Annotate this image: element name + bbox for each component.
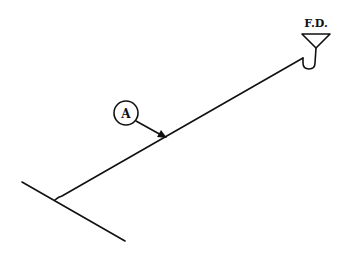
plumbing-diagram: F.D. A xyxy=(0,0,341,261)
fixture-label: F.D. xyxy=(304,17,328,30)
main-pipe xyxy=(22,182,125,241)
callout-label: A xyxy=(120,107,131,121)
floor-drain-funnel-icon xyxy=(302,34,330,48)
p-trap xyxy=(303,48,316,69)
branch-pipe xyxy=(55,58,303,200)
